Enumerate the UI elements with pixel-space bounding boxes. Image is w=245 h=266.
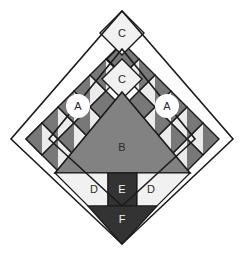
region-e [108,173,137,206]
badge-a-right: A [155,94,179,118]
quilt-diagram: A A C C B D E D F [0,0,245,266]
badge-a-left: A [66,94,90,118]
quilt-svg-canvas: A A C C B D E D F [0,0,245,266]
badge-circle [155,94,179,118]
badge-circle [66,94,90,118]
